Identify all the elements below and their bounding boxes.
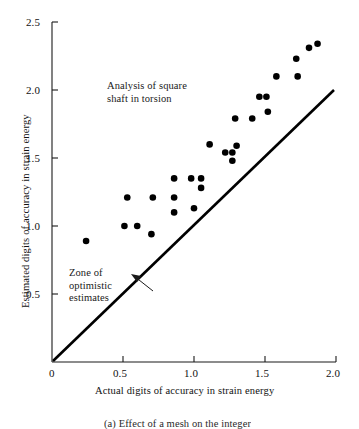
x-tick-label-0: 0 [49, 367, 55, 379]
x-tick-label-1.0: 1.0 [184, 367, 198, 379]
data-point [206, 141, 213, 148]
data-point [124, 194, 131, 201]
data-point [265, 108, 272, 115]
x-tick-label-1.5: 1.5 [255, 367, 269, 379]
data-point [229, 157, 236, 164]
data-point [229, 149, 236, 156]
x-tick-label-2.0: 2.0 [326, 367, 340, 379]
data-point [256, 94, 263, 101]
data-point [171, 175, 178, 182]
series-title-annotation: Analysis of square shaft in torsion [107, 80, 187, 105]
y-axis-label: Estimated digits of accuracy in strain e… [20, 114, 31, 308]
x-axis-label: Actual digits of accuracy in strain ener… [95, 385, 274, 396]
data-point [171, 209, 178, 216]
data-point [150, 194, 157, 201]
data-point [233, 142, 240, 149]
data-point [249, 115, 256, 122]
x-tick-label-0.5: 0.5 [113, 367, 127, 379]
data-point [171, 194, 178, 201]
data-point-group [83, 40, 321, 244]
data-point [294, 73, 301, 80]
data-point [273, 73, 280, 80]
reference-identity-line [53, 90, 334, 361]
plot-canvas [0, 0, 359, 429]
data-point [293, 55, 300, 62]
data-point [306, 45, 313, 52]
data-point [232, 115, 239, 122]
scatter-plot-figure: 2.5 2.0 1.5 1.0 0.5 0 0.5 1.0 1.5 2.0 Es… [0, 0, 359, 429]
data-point [148, 231, 155, 238]
data-point [191, 205, 198, 212]
data-point [121, 223, 128, 230]
data-point [134, 223, 141, 230]
data-point [222, 149, 229, 156]
data-point [188, 175, 195, 182]
y-tick-label-2.5: 2.5 [26, 16, 40, 28]
data-point [263, 94, 270, 101]
data-point [83, 238, 90, 245]
figure-caption: (a) Effect of a mesh on the integer [104, 418, 251, 429]
data-point [198, 175, 205, 182]
data-point [198, 185, 205, 192]
y-tick-label-2.0: 2.0 [26, 84, 40, 96]
zone-label-annotation: Zone of optimistic estimates [69, 267, 112, 305]
data-point [314, 40, 321, 47]
